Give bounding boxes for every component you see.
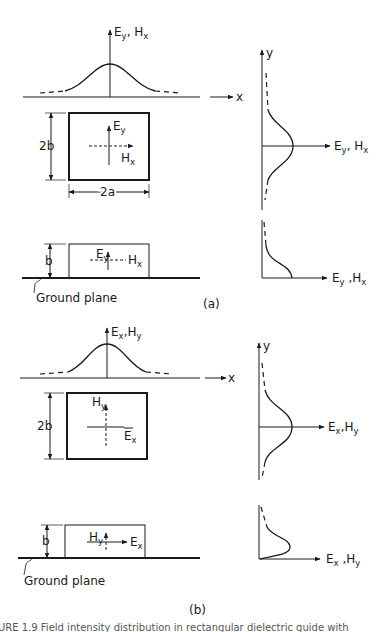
part-a-cross-section: [45, 113, 149, 198]
b-height-label: 2b: [37, 419, 52, 433]
guide-rectangle: [67, 393, 147, 459]
a-y-label: y: [266, 46, 273, 60]
part-a-side-profile: [262, 50, 330, 210]
part-b-ground-section: [18, 525, 200, 575]
b-ground-hy-label: Hy: [89, 530, 103, 546]
b-hy-label: Hy: [92, 395, 106, 411]
field-tail-left: [40, 91, 65, 93]
b-side-field-label: Ex,Hy: [328, 420, 359, 436]
b-x-label: x: [228, 371, 235, 385]
a-top-axis-label: Ey, Hx: [114, 25, 148, 41]
b-ground-plane-label: Ground plane: [24, 574, 105, 588]
b-y-label: y: [263, 339, 270, 353]
a-side-field-label: Ey, Hx: [334, 139, 368, 155]
part-b-ground-side-profile: [259, 505, 320, 559]
a-ground-hx-label: Hx: [128, 253, 142, 269]
part-a-ground-side-profile: [262, 220, 327, 278]
field-curve: [268, 110, 293, 180]
part-b-side-profile: [259, 343, 324, 480]
a-hx-label: Hx: [121, 151, 135, 167]
a-width-label: 2a: [100, 185, 115, 199]
part-a-ground-section: [22, 244, 200, 293]
field-curve: [265, 390, 292, 462]
field-curve: [266, 245, 292, 278]
b-top-axis-label: Ex,Hy: [111, 325, 142, 341]
field-curve: [260, 527, 290, 559]
b-half-height-label: b: [42, 534, 50, 548]
field-tail-right: [155, 91, 180, 93]
b-ground-ex-label: Ex: [130, 535, 143, 551]
b-part-label: (b): [189, 603, 206, 617]
a-ground-ey-label: Ey: [96, 247, 109, 263]
a-ey-label: Ey: [113, 119, 126, 135]
a-part-label: (a): [203, 297, 220, 311]
a-x-label: x: [236, 90, 243, 104]
a-half-height-label: b: [45, 254, 53, 268]
b-ex-label: Ex: [124, 429, 137, 445]
ground-leader: [24, 558, 32, 575]
dielectric-guide-figure: Ey, Hx x 2b 2a Ey Hx b Ey Hx Ground plan…: [0, 0, 388, 632]
a-height-label: 2b: [39, 139, 54, 153]
a-ground-plane-label: Ground plane: [36, 291, 117, 305]
part-a-top-profile: [23, 30, 233, 97]
b-ground-side-field-label: Ex ,Hy: [326, 552, 360, 568]
figure-caption: URE 1.9 Field intensity distribution in …: [0, 622, 348, 632]
a-ground-side-field-label: Ey ,Hx: [332, 271, 366, 287]
